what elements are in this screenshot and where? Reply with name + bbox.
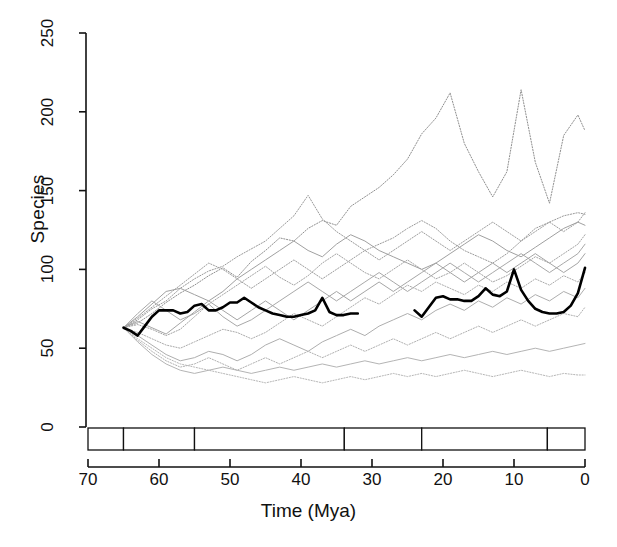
series-line — [124, 288, 586, 361]
series-line — [124, 235, 586, 336]
timescale-band — [422, 428, 548, 450]
series-line-observed — [415, 268, 585, 317]
plot-area — [0, 0, 617, 547]
series-line — [124, 328, 586, 374]
series-line — [124, 90, 586, 328]
series-line — [124, 273, 586, 349]
series-group — [124, 90, 586, 383]
chart-figure: Species Time (Mya) 050100150200250 70605… — [0, 0, 617, 547]
timescale-band — [124, 428, 195, 450]
series-line — [124, 307, 586, 370]
series-line-observed — [124, 298, 358, 336]
timescale-bar — [88, 428, 585, 450]
timescale-band — [547, 428, 585, 450]
series-line — [124, 328, 586, 383]
timescale-band — [195, 428, 345, 450]
timescale-band — [88, 428, 124, 450]
timescale-band — [344, 428, 421, 450]
axes-group — [79, 33, 585, 467]
